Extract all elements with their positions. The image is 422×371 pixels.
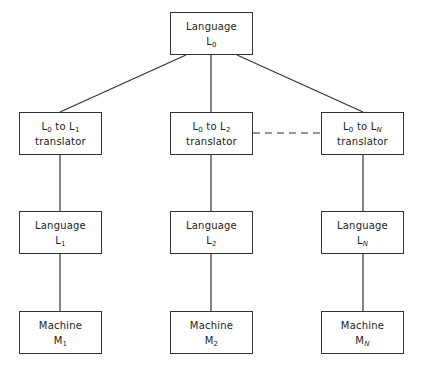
node-symbol: L1 [55,233,65,248]
node-translator-l0-l2: L0 to L2 translator [170,112,253,155]
node-translator-l0-l1: L0 to L1 translator [19,112,102,155]
node-label: translator [186,134,237,149]
node-label: Machine [39,318,82,333]
node-translator-heading: L0 to L1 [41,119,79,134]
node-symbol: L2 [206,233,216,248]
node-translator-l0-ln: L0 to LN translator [321,112,404,155]
node-language-ln: Language LN [321,211,404,254]
node-label: Language [186,218,237,233]
node-label: Language [337,218,388,233]
node-machine-mn: Machine MN [321,311,404,354]
node-symbol: M2 [205,333,218,348]
node-language-l1: Language L1 [19,211,102,254]
edge-root-to-translator-n [237,55,363,112]
node-label: Machine [341,318,384,333]
node-label: translator [337,134,388,149]
node-symbol: M1 [54,333,67,348]
node-label: translator [35,134,86,149]
node-translator-heading: L0 to LN [343,119,382,134]
node-label: Language [35,218,86,233]
node-language-l0: Language L0 [170,12,253,55]
node-symbol: MN [355,333,369,348]
node-label: Machine [190,318,233,333]
node-symbol: L0 [206,34,216,49]
node-symbol: LN [357,233,368,248]
node-language-l2: Language L2 [170,211,253,254]
node-translator-heading: L0 to L2 [192,119,230,134]
node-label: Language [186,19,237,34]
edge-root-to-translator-1 [60,55,186,112]
node-machine-m1: Machine M1 [19,311,102,354]
node-machine-m2: Machine M2 [170,311,253,354]
